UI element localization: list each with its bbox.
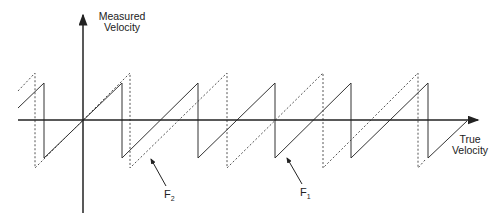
- f1-label-name: F: [300, 186, 307, 198]
- aliasing-diagram: [0, 0, 497, 222]
- y-axis-label: Measured Velocity: [94, 11, 150, 33]
- x-axis-label: True Velocity: [445, 134, 495, 156]
- f2-label-subscript: 2: [171, 195, 175, 202]
- f1-label: F1: [300, 186, 311, 200]
- f1-pointer-arrow: [287, 158, 302, 184]
- x-axis-label-line2: Velocity: [445, 145, 495, 156]
- f2-pointer-arrow: [151, 159, 166, 186]
- y-axis-label-line2: Velocity: [94, 22, 150, 33]
- f2-label: F2: [164, 188, 175, 202]
- f1-label-subscript: 1: [307, 193, 311, 200]
- f2-label-name: F: [164, 188, 171, 200]
